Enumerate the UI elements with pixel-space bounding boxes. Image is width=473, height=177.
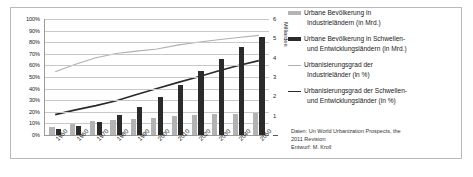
y-tick-right: 5: [273, 35, 276, 41]
chart-screenshot: 100%90%80%70%60%50%40%30%20%10%0% 654321…: [0, 0, 473, 177]
y-tick-right: 6: [273, 16, 276, 22]
bar: [198, 71, 203, 135]
y-axis-left: 100%90%80%70%60%50%40%30%20%10%0%: [11, 8, 43, 135]
legend-label: Urbanisierungsgrad der Schwellen-und Ent…: [304, 86, 407, 105]
y-tick-left: 30%: [29, 97, 40, 103]
y-tick-right: 1: [273, 113, 276, 119]
bar: [253, 113, 258, 135]
chart-legend: Urbane Bevölkerung inIndustrieländern (i…: [288, 8, 448, 112]
bar: [192, 115, 197, 135]
y-tick-left: 70%: [29, 51, 40, 57]
bar: [212, 114, 217, 135]
legend-label: Urbane Bevölkerung in Schwellen-und Entw…: [304, 34, 407, 53]
legend-swatch-icon: [288, 91, 301, 92]
source-line-1: Daten: Un World Urbanization Prospects, …: [291, 128, 451, 136]
legend-swatch-icon: [288, 37, 301, 41]
bar: [239, 47, 244, 135]
legend-item[interactable]: Urbanisierungsgrad der Schwellen-und Ent…: [288, 86, 448, 105]
gridline: [45, 54, 269, 55]
bar: [49, 127, 54, 136]
legend-item[interactable]: Urbane Bevölkerung inIndustrieländern (i…: [288, 8, 448, 27]
bar: [70, 124, 75, 135]
bar: [151, 118, 156, 135]
source-note: Daten: Un World Urbanization Prospects, …: [291, 128, 451, 152]
gridline: [45, 19, 269, 20]
bar: [110, 120, 115, 135]
gridline: [45, 65, 269, 66]
y-tick-left: 90%: [29, 28, 40, 34]
legend-label: Urbanisierungsgrad derIndustrieländer (i…: [304, 60, 373, 79]
y-tick-left: 100%: [26, 16, 40, 22]
y-tick-left: 40%: [29, 86, 40, 92]
x-axis-labels: 1950196019701980199020002010202020302040…: [44, 137, 268, 163]
bar: [131, 119, 136, 135]
y-tick-left: 20%: [29, 109, 40, 115]
legend-swatch-icon: [288, 65, 301, 66]
legend-swatch-icon: [288, 11, 301, 15]
bar: [90, 121, 95, 135]
bar: [233, 114, 238, 135]
gridline: [45, 77, 269, 78]
gridline: [45, 42, 269, 43]
y-tick-right: 3: [273, 74, 276, 80]
bar: [219, 59, 224, 135]
legend-item[interactable]: Urbane Bevölkerung in Schwellen-und Entw…: [288, 34, 448, 53]
y-tick-right: [273, 132, 278, 138]
gridline: [45, 89, 269, 90]
source-line-2: 2011 Revision: [291, 136, 451, 144]
bar: [178, 85, 183, 135]
y-tick-left: 10%: [29, 120, 40, 126]
source-line-3: Entwurf: M. Kroll: [291, 144, 451, 152]
plot-area: [44, 19, 269, 136]
legend-item[interactable]: Urbanisierungsgrad derIndustrieländer (i…: [288, 60, 448, 79]
gridline: [45, 31, 269, 32]
y-tick-left: 60%: [29, 62, 40, 68]
y-tick-left: 50%: [29, 74, 40, 80]
bar: [172, 116, 177, 135]
y-tick-right: 4: [273, 55, 276, 61]
bar: [259, 37, 264, 135]
y-tick-left: 0%: [32, 132, 40, 138]
legend-label: Urbane Bevölkerung inIndustrieländern (i…: [304, 8, 381, 27]
y-tick-left: 80%: [29, 39, 40, 45]
y-tick-right: 2: [273, 93, 276, 99]
